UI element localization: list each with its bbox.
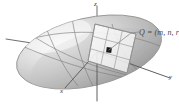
- figure-container: z y x Q = (m, n, r: [0, 0, 179, 107]
- axis-label-x: x: [60, 88, 63, 95]
- ellipsoid-tangent-plane-diagram: [0, 0, 179, 107]
- point-q-label-text: Q = (m, n, r: [139, 28, 179, 37]
- axis-label-z: z: [94, 1, 97, 8]
- point-q-label: Q = (m, n, r: [139, 29, 179, 37]
- axis-label-y: y: [169, 74, 172, 81]
